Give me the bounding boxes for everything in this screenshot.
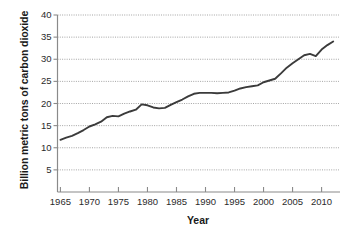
y-tick-label-25: 25 xyxy=(30,76,52,86)
data-series-line xyxy=(60,42,333,140)
x-tick-label-2010: 2010 xyxy=(305,197,339,207)
x-tick-marks-group xyxy=(60,187,321,192)
y-tick-label-35: 35 xyxy=(30,32,52,42)
y-tick-label-15: 15 xyxy=(30,121,52,131)
x-axis-title: Year xyxy=(57,214,339,226)
co2-emissions-line-chart: Billion metric tons of carbon dioxide 51… xyxy=(0,0,353,238)
y-tick-label-30: 30 xyxy=(30,54,52,64)
y-tick-label-10: 10 xyxy=(30,143,52,153)
y-tick-label-5: 5 xyxy=(30,165,52,175)
y-tick-label-20: 20 xyxy=(30,99,52,109)
y-tick-label-40: 40 xyxy=(30,10,52,20)
